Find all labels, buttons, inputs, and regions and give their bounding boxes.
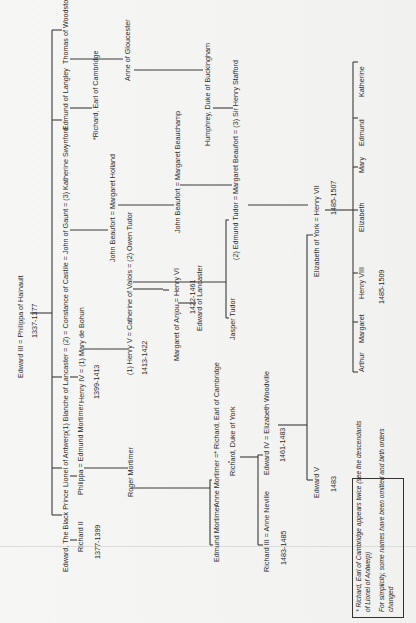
edward-v-reign: 1483	[330, 476, 337, 492]
child-henry-viii: Henry VIII	[358, 267, 365, 299]
lionel-of-antwerp: Lionel of Antwerp	[62, 432, 69, 487]
edward-of-lancaster: Edward of Lancaster	[196, 265, 203, 331]
richard-iii-reign: 1483-1485	[280, 531, 287, 565]
child-edmund: Edmund	[358, 119, 365, 146]
thomas-of-woodstock: Thomas of Woodstock	[62, 0, 69, 64]
footnote-line-1: * Richard, Earl of Cambridge appears twi…	[356, 421, 363, 612]
elizabeth-of-york-henry-vii: Elizabeth of York = Henry VII	[313, 185, 320, 277]
jasper-tudor: Jasper Tudor	[229, 298, 236, 340]
richard-duke-of-york: Richard, Duke of York	[229, 406, 236, 476]
richard-ii: Richard II	[77, 521, 84, 552]
anne-of-gloucester: Anne of Gloucester	[124, 19, 131, 81]
henry-iv: Henry IV = (1) Mary de Bohun	[78, 307, 85, 403]
document-page: Edward III = Philippa of Hainault 1337-1…	[0, 0, 416, 623]
philippa-mortimer: Philippa = Edmund Mortimer	[77, 404, 84, 495]
child-margaret: Margaret	[358, 314, 365, 343]
footnote-line-3: For simplicity, some names have been omi…	[379, 429, 386, 613]
footnote-line-4: changed	[388, 587, 395, 612]
child-elizabeth: Elizabeth	[358, 202, 365, 232]
henry-v-reign: 1413-1422	[141, 341, 148, 375]
humphrey-duke-of-buckingham: Humphrey, Duke of Buckingham	[204, 43, 211, 146]
edward-iv-reign: 1461-1483	[279, 428, 286, 462]
edmund-of-langley: Edmund of Langley	[62, 68, 69, 130]
henry-vii-reign: 1485-1507	[330, 181, 337, 215]
john-beaufort-holland: John Beaufort = Margaret Holland	[109, 154, 116, 262]
child-katherine: Katherine	[358, 66, 365, 97]
edward-iii-reign: 1337-1377	[31, 304, 38, 338]
child-mary: Mary	[358, 157, 365, 173]
child-arthur: Arthur	[358, 352, 365, 372]
richard-iii-anne-neville: Richard III = Anne Neville	[263, 491, 270, 572]
john-of-gaunt-marriages: (1) Blanche of Lancaster = (2) = Constan…	[62, 127, 69, 432]
edmund-mortimer: Edmund Mortimer	[213, 505, 220, 562]
edward-iv-woodville: Edward IV = Elizabeth Woodville	[263, 371, 270, 475]
henry-viii-reign: 1485-1509	[378, 270, 385, 304]
henry-v-catherine-owen: (1) Henry V = Catherine of Valois = (2) …	[126, 212, 133, 375]
edward-v: Edward V	[313, 467, 320, 498]
edmund-tudor-margaret-beaufort: (2) Edmund Tudor = Margaret Beaufort = (…	[232, 60, 239, 260]
richard-ii-reign: 1377-1399	[94, 525, 101, 559]
john-beaufort-beauchamp: John Beaufort = Margaret Beauchamp	[174, 111, 181, 233]
anne-mortimer-richard: Anne Mortimer =* Richard, Earl of Cambri…	[213, 362, 220, 507]
henry-iv-reign: 1399-1413	[93, 365, 100, 399]
roger-mortimer: Roger Mortimer	[127, 447, 134, 497]
richard-earl-of-cambridge-1: *Richard, Earl of Cambridge	[92, 51, 99, 140]
margaret-of-anjou-henry-vi: Margaret of Anjou = Henry VI	[173, 268, 180, 361]
edward-iii-couple: Edward III = Philippa of Hainault	[17, 276, 24, 378]
black-prince: Edward, The Black Prince	[62, 489, 69, 572]
footnote-line-2: of Lionel of Antwerp)	[365, 552, 372, 612]
